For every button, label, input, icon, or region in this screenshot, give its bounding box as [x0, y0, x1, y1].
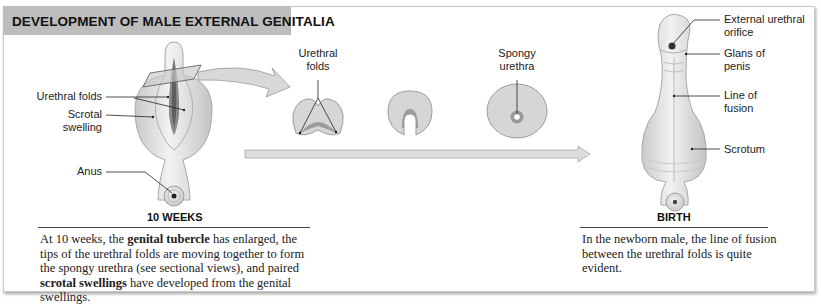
label-glans-2: penis	[724, 60, 750, 73]
label-scrotum: Scrotum	[724, 143, 765, 156]
ten-weeks-illustration	[106, 42, 212, 206]
caption-divider-birth	[580, 227, 768, 228]
label-scrotal-swelling-2: swelling	[20, 121, 102, 134]
label-external-urethral-orifice-1: External urethral	[724, 13, 805, 26]
caption-10-weeks: At 10 weeks, the genital tubercle has en…	[40, 232, 312, 305]
section-view-2	[388, 91, 432, 135]
section-view-3	[487, 80, 547, 138]
caption-birth: In the newborn male, the line of fusion …	[582, 232, 782, 276]
label-section-urethral-folds-2: folds	[288, 60, 348, 73]
timeline-arrow-icon	[245, 146, 590, 162]
birth-illustration	[642, 14, 720, 211]
stage-label-10-weeks: 10 WEEKS	[147, 211, 203, 223]
label-line-of-fusion-1: Line of	[724, 89, 757, 102]
label-spongy-urethra-2: urethra	[487, 60, 547, 73]
label-anus: Anus	[20, 165, 102, 178]
label-scrotal-swelling-1: Scrotal	[20, 108, 102, 121]
curved-arrow-icon	[198, 68, 290, 97]
label-spongy-urethra-1: Spongy	[487, 47, 547, 60]
stage-label-birth: BIRTH	[657, 211, 691, 223]
label-section-urethral-folds-1: Urethral	[288, 47, 348, 60]
label-external-urethral-orifice-2: orifice	[724, 26, 753, 39]
label-glans-1: Glans of	[724, 47, 765, 60]
label-urethral-folds: Urethral folds	[20, 90, 102, 103]
section-view-1	[293, 80, 343, 135]
label-line-of-fusion-2: fusion	[724, 102, 753, 115]
caption-divider	[38, 227, 310, 228]
